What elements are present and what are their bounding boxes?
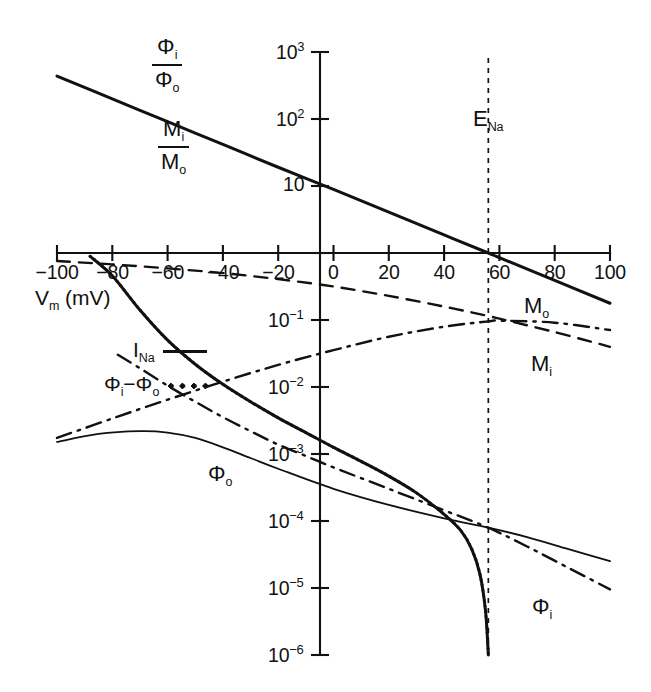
legend-entry-phi-difference: Φi−Φo	[104, 372, 214, 399]
y-tick-label: 103	[276, 39, 304, 64]
x-tick-label: 60	[489, 261, 510, 284]
x-tick-label: −100	[36, 261, 79, 284]
x-tick-label: 80	[544, 261, 565, 284]
phii-curve-label: Φi	[532, 594, 552, 622]
y-tick-label: 10−3	[268, 441, 304, 466]
y-tick-label: 10−1	[268, 307, 304, 332]
legend-entry-ina: INa	[133, 338, 207, 365]
x-tick-label: −80	[96, 261, 128, 284]
y-tick-label: 102	[276, 106, 304, 131]
curves-group	[57, 76, 610, 655]
flux-ratio-phi-label: Φi Φo	[152, 36, 182, 95]
legend-label-phi-difference: Φi−Φo	[104, 372, 159, 399]
x-axis-title: Vm (mV)	[35, 286, 111, 313]
plot-svg	[0, 0, 651, 692]
y-tick-label: 10	[283, 173, 304, 196]
x-tick-label: 40	[434, 261, 455, 284]
y-tick-label: 10−6	[268, 642, 304, 667]
legend-key-solid-line	[163, 350, 207, 353]
figure-panel: 1031021010−110−210−310−410−510−6 −100−80…	[0, 0, 651, 692]
x-tick-label: 0	[328, 261, 339, 284]
curve-phi-o	[57, 431, 610, 561]
x-tick-label: −40	[207, 261, 239, 284]
mo-curve-label: Mo	[524, 293, 549, 321]
x-tick-label: −60	[152, 261, 184, 284]
legend-key-dotted-line	[168, 383, 214, 389]
y-tick-label: 10−4	[268, 508, 304, 533]
legend-label-ina: INa	[133, 338, 154, 365]
phio-curve-label: Φo	[208, 461, 232, 489]
x-tick-label: −20	[262, 261, 294, 284]
y-tick-label: 10−2	[268, 374, 304, 399]
mi-curve-label: Mi	[531, 351, 552, 379]
flux-ratio-m-label: Mi Mo	[158, 118, 189, 177]
y-tick-label: 10−5	[268, 575, 304, 600]
ena-label: ENa	[473, 106, 503, 134]
x-tick-label: 100	[594, 261, 626, 284]
x-tick-label: 20	[378, 261, 399, 284]
